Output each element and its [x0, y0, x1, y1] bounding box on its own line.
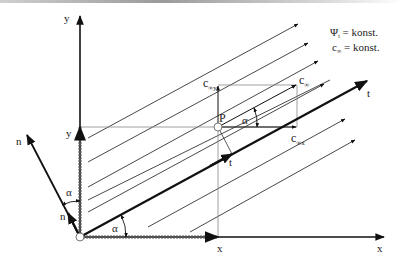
- c-inf-y-label: c∞y: [203, 76, 217, 92]
- point-p-label: P: [219, 111, 226, 125]
- alpha-label-origin: α: [112, 222, 118, 234]
- c-constant: c∞ = konst.: [332, 41, 380, 54]
- y-point-label: y: [66, 127, 72, 139]
- streamlines: [88, 24, 355, 240]
- angle-arc-origin: [121, 215, 126, 237]
- c-inf-x-label: c∞x: [291, 131, 305, 147]
- n-axis-label: n: [16, 135, 22, 147]
- y-axis-label: y: [64, 12, 70, 24]
- streamline-diagram: y x x y n n t t P α α α c∞y c∞ c∞x Ψt = …: [0, 0, 404, 266]
- alpha-label-n: α: [66, 186, 72, 198]
- n-unit-label: n: [60, 210, 66, 222]
- c-inf-label: c∞: [299, 73, 309, 89]
- angle-arc-n: [62, 201, 80, 205]
- alpha-label-p: α: [242, 114, 248, 126]
- origin-point: [76, 233, 84, 241]
- t-axis-label: t: [367, 87, 370, 99]
- psi-constant: Ψt = konst.: [330, 26, 378, 39]
- x-axis-label: x: [217, 242, 223, 254]
- x-axis-end-label: x: [377, 242, 383, 254]
- t-unit-label: t: [229, 156, 232, 168]
